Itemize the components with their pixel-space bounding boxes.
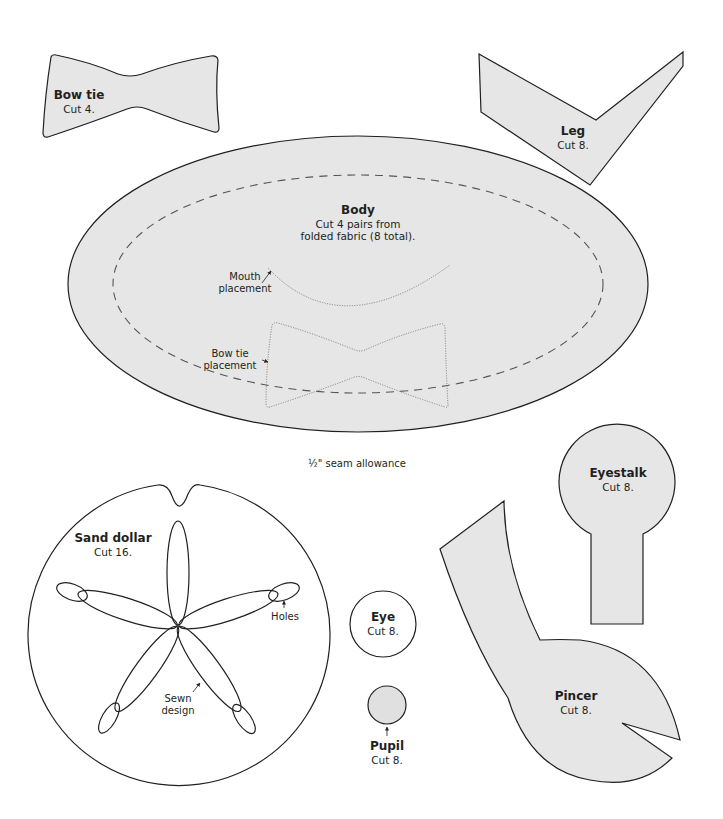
eye-instruction: Cut 8. xyxy=(367,625,398,637)
pupil-instruction: Cut 8. xyxy=(370,754,404,766)
bowtie-note-line1: Bow tie xyxy=(211,348,248,359)
leg-title: Leg xyxy=(557,125,588,139)
sand-dollar-piece xyxy=(28,485,330,786)
eye-label: Eye Cut 8. xyxy=(367,611,398,637)
bow-tie-title: Bow tie xyxy=(54,89,105,103)
bow-tie-label: Bow tie Cut 4. xyxy=(54,89,105,115)
pincer-instruction: Cut 8. xyxy=(555,704,598,716)
body-label: Body Cut 4 pairs from folded fabric (8 t… xyxy=(301,204,416,242)
bowtie-placement-note: Bow tie placement xyxy=(203,348,256,372)
pincer-title: Pincer xyxy=(555,690,598,704)
pincer-piece xyxy=(440,501,680,782)
seam-allowance-note: ½" seam allowance xyxy=(308,458,406,470)
sewn-note-line1: Sewn xyxy=(164,693,191,704)
eyestalk-label: Eyestalk Cut 8. xyxy=(589,467,646,493)
pupil-piece xyxy=(368,686,406,724)
body-instruction-1: Cut 4 pairs from xyxy=(301,218,416,230)
leg-label: Leg Cut 8. xyxy=(557,125,588,151)
mouth-note-line1: Mouth xyxy=(229,271,260,282)
mouth-placement-note: Mouth placement xyxy=(218,271,271,295)
bow-tie-instruction: Cut 4. xyxy=(54,103,105,115)
pupil-label: Pupil Cut 8. xyxy=(370,740,404,766)
eyestalk-piece xyxy=(559,424,675,624)
body-title: Body xyxy=(301,204,416,218)
pincer-label: Pincer Cut 8. xyxy=(555,690,598,716)
sewn-note-line2: design xyxy=(161,705,194,716)
leg-instruction: Cut 8. xyxy=(557,139,588,151)
eye-title: Eye xyxy=(367,611,398,625)
holes-note: Holes xyxy=(271,611,299,623)
mouth-note-line2: placement xyxy=(218,283,271,294)
sewn-design-note: Sewn design xyxy=(161,693,194,717)
bowtie-note-line2: placement xyxy=(203,360,256,371)
holes-note-text: Holes xyxy=(271,611,299,622)
seam-note-text: ½" seam allowance xyxy=(308,458,406,469)
eyestalk-instruction: Cut 8. xyxy=(589,481,646,493)
body-piece xyxy=(68,136,648,432)
pattern-sheet xyxy=(0,0,723,819)
pupil-title: Pupil xyxy=(370,740,404,754)
sand-dollar-label: Sand dollar Cut 16. xyxy=(74,532,151,558)
eyestalk-title: Eyestalk xyxy=(589,467,646,481)
sand-dollar-instruction: Cut 16. xyxy=(74,546,151,558)
sand-dollar-title: Sand dollar xyxy=(74,532,151,546)
body-instruction-2: folded fabric (8 total). xyxy=(301,230,416,242)
